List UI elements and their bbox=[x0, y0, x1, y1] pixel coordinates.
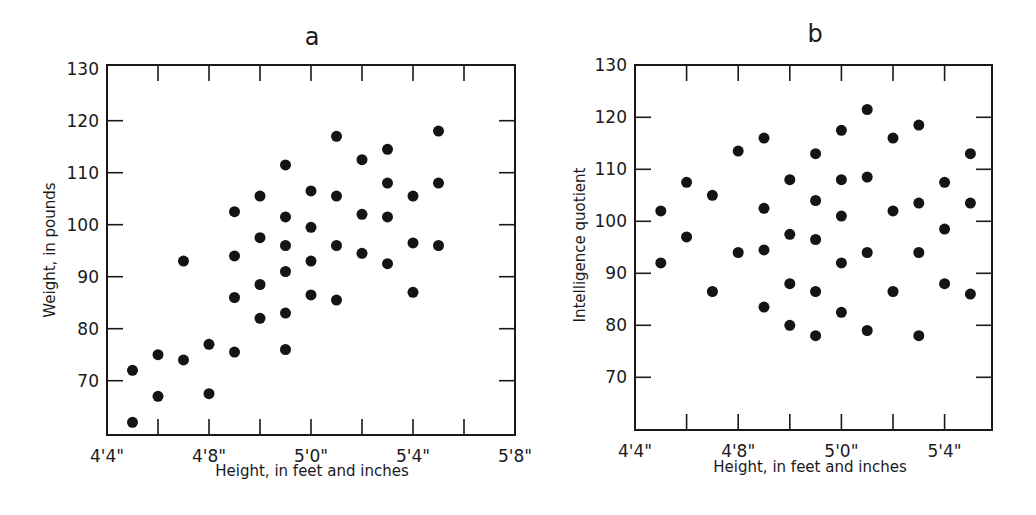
data-point bbox=[759, 203, 770, 214]
y-tick-label: 80 bbox=[605, 315, 627, 335]
data-point bbox=[255, 313, 266, 324]
data-point bbox=[784, 174, 795, 185]
data-point bbox=[939, 224, 950, 235]
scatter-figure: a 708090100110120130 4'4"4'8"5'0"5'4"5'8… bbox=[0, 0, 1036, 515]
data-point bbox=[433, 178, 444, 189]
chart-title-b: b bbox=[807, 20, 822, 48]
data-point bbox=[836, 174, 847, 185]
data-point bbox=[862, 172, 873, 183]
data-point bbox=[331, 295, 342, 306]
data-point bbox=[153, 391, 164, 402]
y-tick-label: 110 bbox=[595, 159, 627, 179]
y-axis-ticks-a: 708090100110120130 bbox=[67, 59, 515, 391]
x-axis-label-b: Height, in feet and inches bbox=[713, 458, 907, 476]
y-axis-ticks-b: 708090100110120130 bbox=[595, 55, 992, 387]
data-point bbox=[862, 325, 873, 336]
data-point bbox=[733, 247, 744, 258]
data-point bbox=[255, 279, 266, 290]
data-point bbox=[229, 250, 240, 261]
data-point bbox=[331, 191, 342, 202]
data-point bbox=[382, 144, 393, 155]
data-point bbox=[255, 191, 266, 202]
data-point bbox=[306, 222, 317, 233]
y-axis-label-a: Weight, in pounds bbox=[41, 182, 59, 317]
data-point bbox=[255, 232, 266, 243]
chart-panel-a: a 708090100110120130 4'4"4'8"5'0"5'4"5'8… bbox=[41, 23, 532, 480]
data-point bbox=[306, 289, 317, 300]
y-tick-label: 120 bbox=[67, 111, 99, 131]
y-tick-label: 70 bbox=[77, 371, 99, 391]
plot-frame-b bbox=[635, 65, 992, 430]
data-point bbox=[433, 240, 444, 251]
y-tick-label: 90 bbox=[605, 263, 627, 283]
x-axis-label-a: Height, in feet and inches bbox=[215, 462, 409, 480]
data-point bbox=[280, 159, 291, 170]
data-point bbox=[433, 126, 444, 137]
data-point bbox=[408, 287, 419, 298]
x-tick-label: 4'4" bbox=[618, 441, 652, 461]
data-point bbox=[888, 133, 899, 144]
data-points-b bbox=[655, 104, 976, 341]
y-tick-label: 80 bbox=[77, 319, 99, 339]
data-point bbox=[784, 229, 795, 240]
data-point bbox=[965, 198, 976, 209]
data-point bbox=[280, 344, 291, 355]
data-point bbox=[836, 307, 847, 318]
data-point bbox=[178, 354, 189, 365]
data-point bbox=[681, 231, 692, 242]
data-point bbox=[229, 347, 240, 358]
data-point bbox=[913, 120, 924, 131]
data-point bbox=[382, 258, 393, 269]
data-point bbox=[280, 211, 291, 222]
data-point bbox=[836, 257, 847, 268]
data-point bbox=[759, 244, 770, 255]
data-point bbox=[784, 278, 795, 289]
y-tick-label: 130 bbox=[67, 59, 99, 79]
data-point bbox=[913, 198, 924, 209]
data-point bbox=[862, 104, 873, 115]
data-point bbox=[939, 177, 950, 188]
data-point bbox=[733, 146, 744, 157]
data-point bbox=[913, 247, 924, 258]
data-point bbox=[382, 211, 393, 222]
y-tick-label: 100 bbox=[595, 211, 627, 231]
y-tick-label: 100 bbox=[67, 215, 99, 235]
data-point bbox=[331, 240, 342, 251]
data-point bbox=[280, 240, 291, 251]
data-point bbox=[784, 320, 795, 331]
x-tick-label: 4'4" bbox=[90, 446, 124, 466]
data-point bbox=[178, 256, 189, 267]
y-tick-label: 120 bbox=[595, 107, 627, 127]
data-point bbox=[707, 190, 718, 201]
data-point bbox=[204, 388, 215, 399]
plot-frame-a bbox=[107, 65, 515, 435]
data-point bbox=[836, 211, 847, 222]
x-tick-label: 5'8" bbox=[498, 446, 532, 466]
data-point bbox=[888, 286, 899, 297]
data-point bbox=[810, 234, 821, 245]
data-point bbox=[306, 256, 317, 267]
data-point bbox=[382, 178, 393, 189]
x-axis-ticks-b: 4'4"4'8"5'0"5'4" bbox=[618, 65, 962, 461]
chart-title-a: a bbox=[305, 23, 320, 51]
data-point bbox=[229, 292, 240, 303]
chart-panel-b: b 708090100110120130 4'4"4'8"5'0"5'4" He… bbox=[571, 20, 992, 476]
y-tick-label: 90 bbox=[77, 267, 99, 287]
data-point bbox=[655, 205, 666, 216]
y-axis-label-b: Intelligence quotient bbox=[571, 167, 589, 322]
data-point bbox=[306, 185, 317, 196]
y-tick-label: 130 bbox=[595, 55, 627, 75]
data-point bbox=[810, 148, 821, 159]
data-point bbox=[280, 308, 291, 319]
data-point bbox=[127, 417, 138, 428]
data-point bbox=[707, 286, 718, 297]
data-point bbox=[127, 365, 138, 376]
data-point bbox=[153, 349, 164, 360]
data-point bbox=[939, 278, 950, 289]
data-point bbox=[280, 266, 291, 277]
data-point bbox=[331, 131, 342, 142]
data-point bbox=[913, 330, 924, 341]
x-tick-label: 5'4" bbox=[928, 441, 962, 461]
data-point bbox=[759, 133, 770, 144]
data-point bbox=[810, 330, 821, 341]
